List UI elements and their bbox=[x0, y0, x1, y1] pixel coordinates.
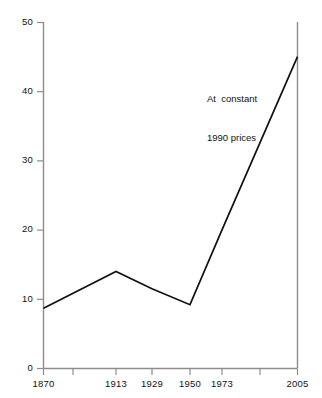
y-axis-label-50: 50 bbox=[11, 16, 33, 27]
annotation-line-1: At constant bbox=[207, 92, 257, 105]
y-axis-label-10: 10 bbox=[11, 293, 33, 304]
chart-annotation: At constant 1990 prices bbox=[207, 66, 257, 170]
chart-figure: 50 40 30 20 10 0 1870 1913 1929 1950 197… bbox=[0, 0, 322, 398]
x-axis-label-1913: 1913 bbox=[96, 378, 136, 389]
annotation-line-2: 1990 prices bbox=[207, 131, 257, 144]
y-axis-label-20: 20 bbox=[11, 223, 33, 234]
x-axis-label-1870: 1870 bbox=[24, 378, 64, 389]
line-chart-canvas bbox=[0, 0, 322, 398]
x-axis-label-1929: 1929 bbox=[132, 378, 172, 389]
y-axis-label-0: 0 bbox=[11, 362, 33, 373]
data-series-line bbox=[44, 57, 298, 309]
y-axis-label-30: 30 bbox=[11, 154, 33, 165]
y-axis-label-40: 40 bbox=[11, 85, 33, 96]
x-axis-label-1973: 1973 bbox=[202, 378, 242, 389]
x-axis-label-2005: 2005 bbox=[278, 378, 318, 389]
